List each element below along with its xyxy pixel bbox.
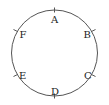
tick-c [92, 75, 96, 77]
tick-b [92, 30, 96, 32]
label-a: A [50, 14, 59, 25]
tick-f [14, 30, 18, 32]
label-b: B [84, 29, 91, 40]
label-c: C [84, 70, 92, 81]
tick-e [14, 75, 18, 77]
label-e: E [19, 70, 26, 81]
label-d: D [51, 86, 59, 97]
label-f: F [20, 29, 27, 40]
circle-diagram: A B C D E F [0, 0, 109, 105]
